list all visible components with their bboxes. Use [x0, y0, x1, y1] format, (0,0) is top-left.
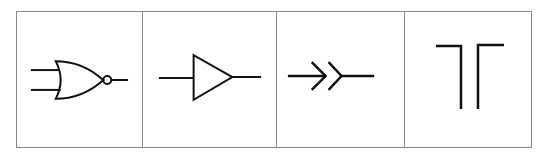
cell-contacts: Contacts (T): [405, 12, 531, 147]
cell-connector: Plug and socket connector: [277, 12, 405, 147]
cell-nor-gate: NOR gate: [17, 12, 143, 147]
plug-socket-connector-icon: [277, 12, 404, 147]
nor-gate-icon: [17, 12, 142, 147]
symbol-table: NOR gate Buffer / amplifier Plug and soc…: [16, 11, 532, 148]
buffer-icon: [143, 12, 276, 147]
contacts-icon: [405, 12, 531, 147]
cell-buffer: Buffer / amplifier: [143, 12, 277, 147]
